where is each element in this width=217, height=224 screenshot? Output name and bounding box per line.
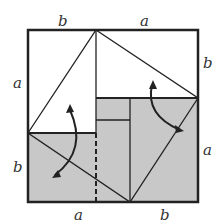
- label-bottom-left: a: [74, 206, 83, 224]
- label-left-bottom: b: [13, 158, 23, 176]
- label-top-left: b: [58, 12, 68, 30]
- label-bottom-right: b: [160, 206, 170, 224]
- label-right-bottom: a: [203, 141, 212, 159]
- arrowhead-right-top: [149, 80, 157, 89]
- label-right-top: b: [203, 54, 213, 72]
- label-left-top: a: [13, 74, 22, 92]
- label-top-right: a: [140, 12, 149, 30]
- pythagorean-diagram: b a a b b a a b: [0, 0, 217, 224]
- arrowhead-left-top: [66, 104, 74, 113]
